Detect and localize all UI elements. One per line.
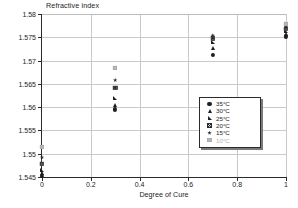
y-gridline bbox=[42, 61, 286, 62]
legend-marker-icon bbox=[203, 131, 216, 136]
data-point bbox=[211, 46, 215, 50]
legend-label: 10°C bbox=[216, 137, 230, 144]
x-axis-tick-label: 0.6 bbox=[184, 181, 194, 188]
data-point bbox=[113, 107, 117, 111]
legend-label: 35°C bbox=[216, 100, 230, 107]
legend-marker-icon bbox=[203, 102, 216, 106]
legend: 35°C30°C25°C20°C15°C10°C bbox=[199, 97, 261, 148]
legend-marker-icon bbox=[203, 138, 216, 142]
x-axis-title: Degree of Cure bbox=[42, 190, 286, 199]
legend-label: 20°C bbox=[216, 122, 230, 129]
data-point bbox=[211, 40, 215, 44]
x-axis-tick-label: 0 bbox=[40, 181, 44, 188]
y-axis-tick bbox=[38, 14, 42, 15]
legend-marker-icon bbox=[203, 123, 216, 127]
y-axis-tick bbox=[38, 107, 42, 108]
y-axis-tick-label: 1.58 bbox=[22, 11, 36, 18]
y-axis-tick bbox=[38, 130, 42, 131]
data-point bbox=[40, 155, 45, 160]
x-axis-tick-label: 0.4 bbox=[135, 181, 145, 188]
y-axis-tick bbox=[38, 84, 42, 85]
x-gridline bbox=[140, 14, 141, 177]
data-point bbox=[211, 36, 215, 40]
legend-marker-icon bbox=[203, 109, 216, 113]
data-point bbox=[113, 103, 117, 107]
legend-item[interactable]: 15°C bbox=[203, 129, 257, 136]
x-axis-tick-label: 1 bbox=[284, 181, 288, 188]
data-point bbox=[40, 145, 44, 149]
plot-area: Degree of Cure 1.5451.551.5551.561.5651.… bbox=[41, 14, 286, 178]
y-axis-tick bbox=[38, 154, 42, 155]
y-axis-tick-label: 1.545 bbox=[18, 174, 36, 181]
data-point bbox=[284, 22, 288, 26]
y-axis-tick bbox=[38, 37, 42, 38]
data-point bbox=[113, 65, 117, 69]
y-gridline bbox=[42, 154, 286, 155]
x-gridline bbox=[188, 14, 189, 177]
data-point bbox=[113, 85, 117, 89]
x-axis-tick-label: 0.8 bbox=[232, 181, 242, 188]
y-axis-tick-label: 1.555 bbox=[18, 127, 36, 134]
x-gridline bbox=[286, 14, 287, 177]
y-axis-title: Refractive index bbox=[46, 1, 99, 10]
y-gridline bbox=[42, 37, 286, 38]
data-point bbox=[211, 53, 215, 57]
y-axis-tick-label: 1.57 bbox=[22, 57, 36, 64]
x-gridline bbox=[91, 14, 92, 177]
data-point bbox=[113, 78, 118, 83]
legend-item[interactable]: 20°C bbox=[203, 122, 257, 129]
x-gridline bbox=[237, 14, 238, 177]
y-axis-tick-label: 1.575 bbox=[18, 34, 36, 41]
x-axis-tick-label: 0.2 bbox=[86, 181, 96, 188]
legend-item[interactable]: 30°C bbox=[203, 107, 257, 114]
y-gridline bbox=[42, 14, 286, 15]
legend-label: 25°C bbox=[216, 115, 230, 122]
legend-marker-icon bbox=[203, 116, 216, 120]
legend-label: 30°C bbox=[216, 107, 230, 114]
refractive-index-scatter-chart: Refractive index Degree of Cure 1.5451.5… bbox=[0, 0, 298, 208]
y-axis-tick bbox=[38, 61, 42, 62]
legend-item[interactable]: 25°C bbox=[203, 115, 257, 122]
y-axis-tick-label: 1.565 bbox=[18, 80, 36, 87]
y-gridline bbox=[42, 84, 286, 85]
y-axis-tick-label: 1.56 bbox=[22, 104, 36, 111]
legend-label: 15°C bbox=[216, 129, 230, 136]
legend-item[interactable]: 10°C bbox=[203, 136, 257, 143]
data-point bbox=[40, 168, 44, 172]
legend-item[interactable]: 35°C bbox=[203, 100, 257, 107]
data-point bbox=[113, 96, 117, 100]
y-axis-tick-label: 1.55 bbox=[22, 150, 36, 157]
data-point bbox=[40, 162, 44, 166]
